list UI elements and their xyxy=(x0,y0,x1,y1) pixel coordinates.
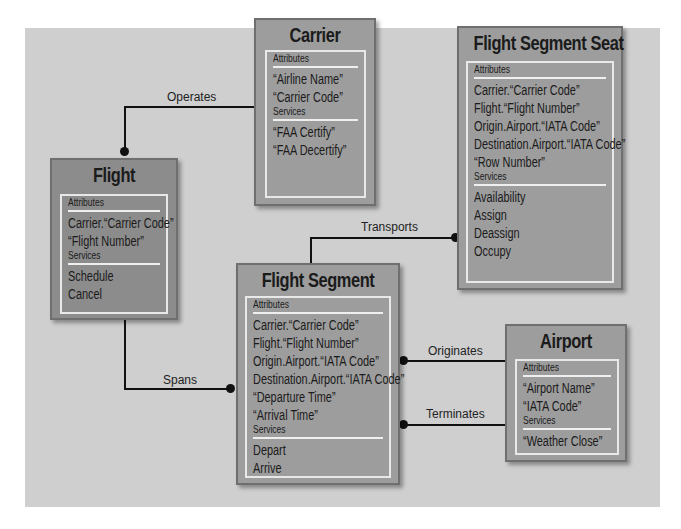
entity-airport[interactable]: Airport Attributes “Airport Name” “IATA … xyxy=(505,324,627,462)
service-item: “Weather Close” xyxy=(523,432,592,450)
terminates-connector xyxy=(403,424,506,426)
entity-body: Attributes “Airline Name” “Carrier Code”… xyxy=(265,50,366,198)
divider xyxy=(273,119,358,121)
divider xyxy=(68,263,160,265)
attributes-label: Attributes xyxy=(474,64,586,76)
attribute-item: Carrier.“Carrier Code” xyxy=(253,316,354,334)
spans-connector-v xyxy=(124,318,126,390)
spans-endpoint-dot xyxy=(226,384,235,393)
attribute-item: Origin.Airport.“IATA Code” xyxy=(474,117,577,135)
spans-connector-h xyxy=(124,388,232,390)
service-item: “FAA Decertify” xyxy=(273,141,339,159)
terminates-endpoint-dot xyxy=(399,420,408,429)
operates-label: Operates xyxy=(167,90,216,104)
attributes-label: Attributes xyxy=(68,197,146,209)
divider xyxy=(253,312,383,314)
transports-connector-h xyxy=(310,237,458,239)
attributes-label: Attributes xyxy=(523,362,598,374)
attribute-item: “Row Number” xyxy=(474,153,577,171)
attributes-label: Attributes xyxy=(273,53,345,65)
divider xyxy=(273,66,358,68)
entity-title: Flight Segment xyxy=(252,267,383,293)
originates-connector xyxy=(403,360,506,362)
attribute-item: Carrier.“Carrier Code” xyxy=(474,81,577,99)
divider xyxy=(253,437,383,439)
attribute-item: “IATA Code” xyxy=(523,397,592,415)
services-label: Services xyxy=(523,415,598,427)
services-label: Services xyxy=(273,106,345,118)
service-item: Cancel xyxy=(68,285,140,303)
divider xyxy=(523,375,611,377)
entity-flight[interactable]: Flight Attributes Carrier.“Carrier Code”… xyxy=(50,158,178,320)
divider xyxy=(474,77,606,79)
services-label: Services xyxy=(253,424,364,436)
service-item: Assign xyxy=(474,206,577,224)
entity-carrier[interactable]: Carrier Attributes “Airline Name” “Carri… xyxy=(254,18,376,206)
service-item: Deassign xyxy=(474,224,577,242)
attribute-item: Flight.“Flight Number” xyxy=(253,334,354,352)
entity-body: Attributes Carrier.“Carrier Code” Flight… xyxy=(466,61,614,283)
attributes-label: Attributes xyxy=(253,299,364,311)
attribute-item: Flight.“Flight Number” xyxy=(474,99,577,117)
entity-body: Attributes Carrier.“Carrier Code” Flight… xyxy=(245,296,391,478)
transports-label: Transports xyxy=(361,220,418,234)
entity-title: Flight xyxy=(63,162,165,188)
service-item: Occupy xyxy=(474,242,577,260)
attribute-item: Carrier.“Carrier Code” xyxy=(68,214,140,232)
originates-label: Originates xyxy=(428,344,483,358)
attribute-item: “Airline Name” xyxy=(273,70,339,88)
entity-body: Attributes “Airport Name” “IATA Code” Se… xyxy=(515,359,619,455)
attribute-item: “Arrival Time” xyxy=(253,406,354,424)
entity-title: Carrier xyxy=(267,22,364,48)
attribute-item: Destination.Airport.“IATA Code” xyxy=(253,370,354,388)
entity-title: Airport xyxy=(518,328,615,354)
entity-flight-segment[interactable]: Flight Segment Attributes Carrier.“Carri… xyxy=(236,263,400,485)
services-label: Services xyxy=(474,171,586,183)
service-item: Arrive xyxy=(253,459,354,477)
service-item: Schedule xyxy=(68,267,140,285)
operates-connector-h xyxy=(124,106,255,108)
spans-label: Spans xyxy=(163,373,197,387)
transports-connector-v xyxy=(310,237,312,264)
attribute-item: “Airport Name” xyxy=(523,379,592,397)
entity-body: Attributes Carrier.“Carrier Code” “Fligh… xyxy=(60,194,168,314)
terminates-label: Terminates xyxy=(426,407,485,421)
service-item: “FAA Certify” xyxy=(273,123,339,141)
entity-flight-segment-seat[interactable]: Flight Segment Seat Attributes Carrier.“… xyxy=(457,26,623,290)
originates-endpoint-dot xyxy=(399,356,408,365)
attribute-item: Destination.Airport.“IATA Code” xyxy=(474,135,577,153)
attribute-item: “Flight Number” xyxy=(68,232,140,250)
service-item: Depart xyxy=(253,441,354,459)
entity-title: Flight Segment Seat xyxy=(474,30,607,56)
divider xyxy=(68,210,160,212)
attribute-item: “Carrier Code” xyxy=(273,88,339,106)
attribute-item: Origin.Airport.“IATA Code” xyxy=(253,352,354,370)
services-label: Services xyxy=(68,250,146,262)
operates-endpoint-dot xyxy=(120,147,129,156)
operates-connector-v xyxy=(124,106,126,152)
service-item: Availability xyxy=(474,188,577,206)
attribute-item: “Departure Time” xyxy=(253,388,354,406)
divider xyxy=(474,184,606,186)
divider xyxy=(523,428,611,430)
